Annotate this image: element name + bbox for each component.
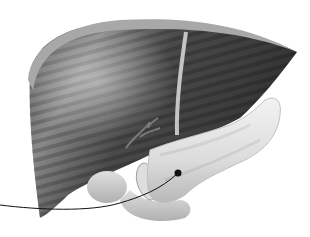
pointer-dot — [175, 170, 182, 177]
anatomy-illustration — [0, 0, 310, 237]
